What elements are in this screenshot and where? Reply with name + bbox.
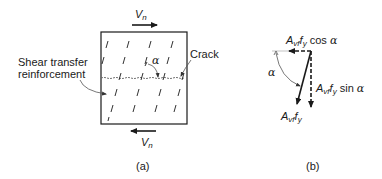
- caption-b: (b): [306, 160, 319, 172]
- reinforcement-label-line1: Shear transfer: [18, 56, 88, 68]
- reinforcement-label-line2: reinforcement: [18, 68, 85, 80]
- angle-label-a: α: [152, 55, 159, 67]
- vertical-component-label: Avffy sin α: [316, 82, 364, 98]
- crack-label: Crack: [190, 48, 219, 60]
- shear-force-bottom-label: Vn: [141, 136, 153, 152]
- resultant-arrow: [297, 51, 311, 104]
- angle-arc-b: [276, 53, 300, 86]
- reinforcement-leader: [80, 80, 106, 94]
- caption-a: (a): [136, 160, 149, 172]
- angle-label-b: α: [268, 67, 275, 79]
- crack-leader: [181, 60, 191, 76]
- reinforcement-bars: [102, 41, 184, 121]
- shear-force-top-label: Vn: [135, 8, 147, 24]
- crack-line: [101, 78, 184, 79]
- horizontal-component-label: Avffy cos α: [286, 34, 337, 50]
- resultant-label: Avffy: [281, 110, 302, 126]
